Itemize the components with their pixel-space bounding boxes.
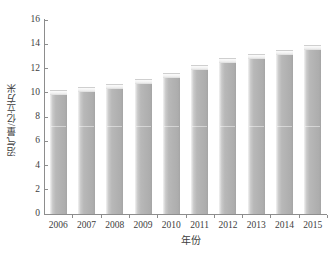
x-tick-mark (129, 215, 130, 218)
figure-caption (0, 249, 330, 258)
bar-sheen (51, 126, 66, 127)
bar-top-highlight (78, 87, 95, 92)
y-tick-label: 6 (0, 134, 40, 147)
x-tick-mark (270, 215, 271, 218)
bar (163, 73, 180, 214)
y-tick-label: 0 (0, 207, 40, 220)
y-tick-mark (44, 68, 48, 69)
y-tick-label: 4 (0, 159, 40, 172)
bar-sheen (220, 126, 235, 127)
x-axis-title-text: 年份 (181, 232, 201, 247)
bar (50, 90, 67, 214)
x-tick-mark (186, 215, 187, 218)
bar-top-highlight (50, 90, 67, 95)
x-tick-mark (72, 215, 73, 218)
bar-top-highlight (304, 45, 321, 50)
bar-top-highlight (248, 54, 265, 59)
y-tick-label: 16 (0, 13, 40, 26)
bar-chart-figure: 沼气量/亿立方米 0246810121416 20062007200820092… (0, 0, 330, 258)
x-tick-mark (214, 215, 215, 218)
y-tick-label: 8 (0, 110, 40, 123)
bar-sheen (305, 126, 320, 127)
bar-top-highlight (276, 50, 293, 55)
x-tick-label: 2015 (293, 219, 330, 232)
y-tick-label: 12 (0, 62, 40, 75)
x-tick-mark (299, 215, 300, 218)
y-tick-mark (44, 117, 48, 118)
bar-top-highlight (163, 73, 180, 78)
y-tick-label: 10 (0, 86, 40, 99)
bar-top-highlight (135, 79, 152, 84)
x-tick-mark (157, 215, 158, 218)
y-tick-mark (44, 189, 48, 190)
y-tick-mark (44, 214, 48, 215)
bar (248, 54, 265, 214)
bar-sheen (136, 126, 151, 127)
bar-sheen (79, 126, 94, 127)
bar-top-highlight (191, 65, 208, 70)
x-tick-mark (101, 215, 102, 218)
x-tick-mark (242, 215, 243, 218)
bar (135, 79, 152, 214)
bar (191, 65, 208, 214)
x-axis-title: 年份 (0, 232, 330, 247)
bar-top-highlight (219, 58, 236, 63)
y-tick-mark (44, 44, 48, 45)
bar (219, 58, 236, 214)
bar-sheen (107, 126, 122, 127)
bar-sheen (164, 126, 179, 127)
bar (78, 87, 95, 214)
bar (106, 84, 123, 214)
bar (304, 45, 321, 214)
y-tick-label: 2 (0, 183, 40, 196)
bar-sheen (192, 126, 207, 127)
y-tick-mark (44, 141, 48, 142)
y-tick-mark (44, 20, 48, 21)
bar-top-highlight (106, 84, 123, 89)
x-tick-mark (327, 215, 328, 218)
y-tick-mark (44, 92, 48, 93)
bar-sheen (277, 126, 292, 127)
y-tick-mark (44, 165, 48, 166)
bar-sheen (249, 126, 264, 127)
bar (276, 50, 293, 214)
y-tick-label: 14 (0, 37, 40, 50)
